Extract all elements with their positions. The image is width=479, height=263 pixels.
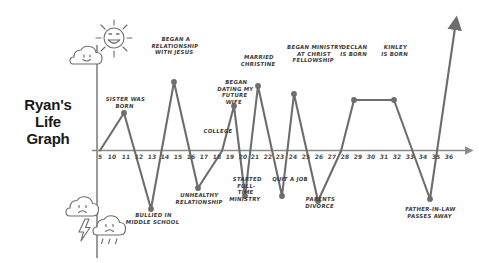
sun-smiling-icon bbox=[96, 20, 132, 57]
annotation-college: College bbox=[200, 128, 237, 135]
annotation-dating-wife: Began dating my future wife bbox=[212, 79, 257, 105]
marker-unhealthy-relationship[interactable] bbox=[195, 185, 201, 191]
chart-svg bbox=[0, 0, 479, 263]
marker-jesus[interactable] bbox=[171, 79, 177, 85]
annotation-parents-divorce: Parents Divorce bbox=[299, 196, 341, 209]
annotation-sister-born: Sister was born bbox=[99, 96, 151, 109]
annotation-declan-born: Declan is born bbox=[332, 44, 376, 57]
annotation-jesus: Began a relationship with Jesus bbox=[146, 36, 204, 56]
tick-36: 36 bbox=[442, 153, 457, 160]
axes bbox=[92, 45, 466, 258]
annotation-fulltime-ministry: Started Full- time ministry bbox=[226, 176, 265, 202]
life-graph-canvas: Ryan's Life Graph bbox=[0, 0, 479, 263]
annotation-quit-job: Quit a job bbox=[270, 176, 311, 183]
annotation-kinley-born: Kinley is born bbox=[374, 44, 416, 57]
marker-christ-fellowship[interactable] bbox=[291, 91, 297, 97]
marker-sister-born[interactable] bbox=[121, 110, 127, 116]
marker-quit-job[interactable] bbox=[279, 193, 285, 199]
cloud-rain-icon bbox=[93, 216, 126, 244]
lightning-bolt-icon bbox=[79, 219, 90, 241]
annotation-father-in-law: Father-in-law passes away bbox=[399, 206, 461, 219]
tick-10: 10 bbox=[105, 153, 120, 160]
annotation-unhealthy-relationship: Unhealthy relationship bbox=[175, 192, 223, 205]
annotation-bullied: Bullied in Middle School bbox=[123, 212, 183, 225]
marker-father-in-law[interactable] bbox=[427, 196, 433, 202]
annotation-married: Married Christine bbox=[235, 54, 282, 67]
cloud-sad-icon bbox=[66, 197, 99, 216]
marker-declan-born[interactable] bbox=[351, 97, 357, 103]
marker-kinley-born[interactable] bbox=[391, 97, 397, 103]
